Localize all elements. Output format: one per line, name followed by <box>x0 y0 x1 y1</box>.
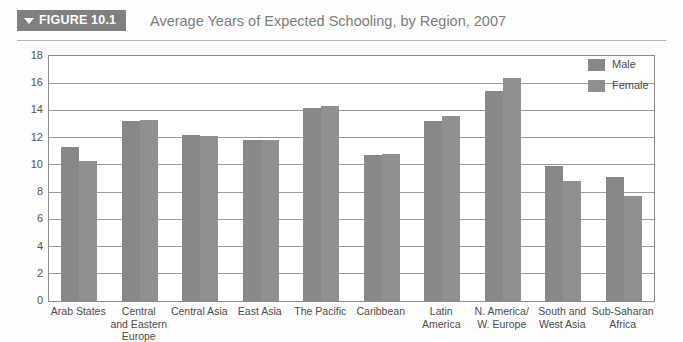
y-axis-tick-label: 2 <box>37 268 43 279</box>
bar-male <box>243 140 261 301</box>
plot-area <box>48 55 655 302</box>
y-axis-tick-label: 14 <box>31 104 43 115</box>
bar-female <box>503 78 521 301</box>
chart-region: 181614121086420 MaleFemale Arab StatesCe… <box>0 44 683 342</box>
figure-title: Average Years of Expected Schooling, by … <box>150 11 506 31</box>
bar-group <box>49 56 110 301</box>
chart-legend: MaleFemale <box>588 56 674 98</box>
bar-group <box>110 56 171 301</box>
y-axis-tick-label: 4 <box>37 241 43 252</box>
legend-label: Male <box>612 59 636 70</box>
bar-male <box>545 166 563 301</box>
bar-group <box>533 56 594 301</box>
bar-female <box>261 140 279 301</box>
legend-swatch <box>588 80 605 92</box>
bar-female <box>382 154 400 301</box>
y-axis-tick-label: 8 <box>37 186 43 197</box>
bar-male <box>182 135 200 301</box>
header-divider <box>17 40 666 41</box>
legend-item: Male <box>588 56 674 73</box>
bar-male <box>122 121 140 301</box>
bar-group <box>412 56 473 301</box>
bar-group <box>291 56 352 301</box>
bar-group <box>352 56 413 301</box>
bar-female <box>442 116 460 301</box>
bar-female <box>624 196 642 301</box>
figure-container: FIGURE 10.1 Average Years of Expected Sc… <box>0 0 683 342</box>
bar-group <box>170 56 231 301</box>
legend-item: Female <box>588 77 674 94</box>
bar-female <box>140 120 158 301</box>
bar-female <box>79 161 97 301</box>
bar-male <box>364 155 382 301</box>
bar-female <box>321 106 339 301</box>
bar-male <box>485 91 503 301</box>
y-axis-tick-label: 18 <box>31 50 43 61</box>
y-axis-tick-label: 6 <box>37 213 43 224</box>
legend-label: Female <box>612 80 649 91</box>
figure-badge-label: FIGURE 10.1 <box>39 14 116 27</box>
figure-badge: FIGURE 10.1 <box>17 10 126 31</box>
bar-male <box>61 147 79 301</box>
legend-swatch <box>588 59 605 71</box>
bar-male <box>606 177 624 301</box>
bar-male <box>303 108 321 301</box>
bar-group <box>231 56 292 301</box>
triangle-down-icon <box>24 18 34 24</box>
bar-female <box>200 136 218 301</box>
bar-group <box>473 56 534 301</box>
y-axis-tick-label: 16 <box>31 77 43 88</box>
y-axis-tick-label: 10 <box>31 159 43 170</box>
figure-header: FIGURE 10.1 Average Years of Expected Sc… <box>0 0 683 44</box>
bar-male <box>424 121 442 301</box>
y-axis-tick-labels: 181614121086420 <box>10 55 43 302</box>
bar-female <box>563 181 581 301</box>
x-axis-tick-label: Sub-Saharan Africa <box>587 305 660 330</box>
y-axis-tick-label: 12 <box>31 132 43 143</box>
